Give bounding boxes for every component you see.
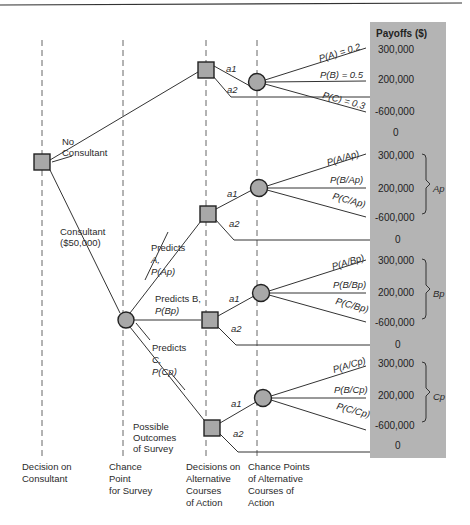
chance-node-survey [118,312,134,328]
col-label-2-3: for Survey [109,485,153,496]
label-a2-g4: a2 [233,428,244,439]
payoff-g3-b: 200,000 [378,287,415,298]
col-label-4-1: Chance Points [248,461,310,472]
col-label-2-1: Chance [109,461,142,472]
decision-node-consultant [34,154,50,170]
decision-node-predicts-b [202,312,218,328]
decision-node-predicts-c [204,420,220,436]
prob-g1-c: P(C) = 0.3 [321,89,367,111]
label-predicts-c-1: Predicts [152,342,187,353]
label-predicts-a-3: P(Ap) [151,266,175,277]
col-label-3-1: Decisions on [186,461,240,472]
label-consultant-2: ($50,000) [60,237,101,248]
prob-g4-a: P(A/Cp) [331,355,367,375]
chance-node-outcomes-2 [251,180,268,197]
decision-tree-diagram: Payoffs ($) [0,0,470,525]
label-a1-g4: a1 [231,398,242,409]
prob-g3-c: P(C/Bp) [334,295,369,314]
label-predicts-c-3: P(Cp) [152,366,177,377]
chance-node-outcomes-4 [255,390,272,407]
decision-node-predicts-a [200,206,216,222]
decision-node-no-consultant [198,62,214,78]
col-label-4-2: of Alternative [248,473,303,484]
col-label-3-3: Courses [186,485,222,496]
prob-g1-a: P(A) = 0.2 [317,41,362,64]
payoff-g3-a: 300,000 [378,255,415,266]
label-consultant-1: Consultant [60,226,106,237]
label-a1-g3: a1 [229,293,240,304]
prob-g1-b: P(B) = 0.5 [320,69,364,80]
payoff-g1-a2: 0 [393,127,399,138]
prob-g2-b: P(B/Ap) [330,174,363,185]
payoff-g2-a2: 0 [395,234,401,245]
payoff-g3-a2: 0 [395,339,401,350]
col-label-3-4: of Action [186,497,222,508]
label-outcomes-3: of Survey [133,443,173,454]
col-label-1-2: Consultant [22,473,68,484]
label-a1-g2: a1 [227,188,238,199]
payoff-g2-c: -600,000 [375,212,415,223]
payoff-g2-b: 200,000 [378,183,415,194]
prob-g3-b: P(B/Bp) [333,279,366,290]
prob-g2-c: P(C/Ap) [331,190,366,209]
payoff-g1-b: 200,000 [378,74,415,85]
payoff-g1-a: 300,000 [378,44,415,55]
col-label-4-4: Action [248,497,274,508]
payoff-g4-b: 200,000 [378,390,415,401]
label-a1-g1: a1 [226,63,237,74]
label-predicts-c-2: C, [152,354,162,365]
prob-g4-b: P(B/Cp) [334,384,368,395]
column-guides [42,40,257,460]
payoff-g2-a: 300,000 [378,150,415,161]
tree-edges [50,48,370,452]
col-label-1-1: Decision on [22,461,72,472]
col-label-3-2: Alternative [186,473,231,484]
brace-label-bp: Bp [433,288,445,299]
payoff-g4-a: 300,000 [378,358,415,369]
payoff-g4-a2: 0 [395,440,401,451]
label-no-consultant-1: No [62,136,74,147]
prob-g2-a: P(A/Ap) [325,148,360,168]
payoff-g3-c: -600,000 [375,317,415,328]
label-a2-g2: a2 [229,218,240,229]
chance-node-outcomes-1 [249,74,266,91]
col-label-2-2: Point [109,473,131,484]
label-predicts-b-2: P(Bp) [155,305,179,316]
label-outcomes-2: Outcomes [133,432,177,443]
label-a2-g1: a2 [227,84,238,95]
label-predicts-a-2: A, [150,254,160,265]
label-predicts-a-1: Predicts [151,242,186,253]
prob-g3-a: P(A/Bp) [330,252,365,272]
chance-node-outcomes-3 [253,285,270,302]
label-predicts-b-1: Predicts B, [155,293,201,304]
prob-g4-c: P(C/Cp) [335,400,371,420]
label-a2-g3: a2 [231,323,242,334]
top-rule [0,3,462,5]
payoff-g1-c: -600,000 [375,106,415,117]
brace-label-ap: Ap [432,183,445,194]
col-label-4-3: Courses of [248,485,294,496]
payoff-g4-c: -600,000 [375,420,415,431]
brace-label-cp: Cp [433,391,445,402]
label-no-consultant-2: Consultant [62,147,108,158]
label-outcomes-1: Possible [133,421,169,432]
payoff-header: Payoffs ($) [376,28,427,39]
